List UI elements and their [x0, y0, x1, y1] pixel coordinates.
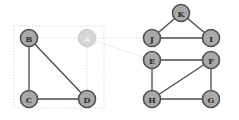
node-label: C — [26, 95, 32, 105]
node-e: E — [144, 52, 161, 69]
node-label: I — [209, 34, 213, 44]
node-i: I — [203, 30, 220, 47]
faded-edges — [29, 38, 152, 99]
node-k: K — [173, 5, 190, 22]
node-label: B — [26, 34, 33, 44]
node-label: D — [84, 95, 91, 105]
node-label: G — [208, 95, 215, 105]
node-label: J — [149, 34, 154, 44]
edge-f-h — [152, 60, 211, 99]
node-d: D — [79, 91, 96, 108]
node-label: H — [148, 95, 156, 105]
node-b: B — [21, 30, 38, 47]
node-h: H — [144, 91, 161, 108]
edge-b-d — [29, 38, 87, 99]
faded-edge-a-e — [87, 38, 152, 60]
node-a: A — [79, 30, 96, 47]
node-label: K — [178, 9, 186, 19]
node-g: G — [203, 91, 220, 108]
node-j: J — [144, 30, 161, 47]
graph-diagram: ABCDKJIEFHG — [0, 0, 239, 120]
node-label: A — [83, 34, 91, 44]
node-f: F — [203, 52, 220, 69]
node-c: C — [21, 91, 38, 108]
node-label: E — [149, 56, 155, 66]
node-label: F — [208, 56, 214, 66]
